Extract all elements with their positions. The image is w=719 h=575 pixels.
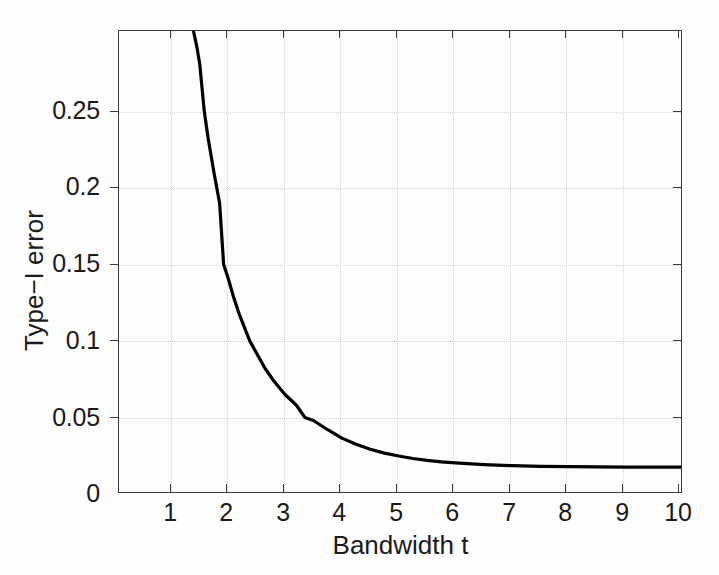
x-tick-label-8: 8: [535, 498, 595, 527]
type-i-error-curve: [193, 31, 682, 467]
x-tick-label-2: 2: [196, 498, 256, 527]
x-tick-label-3: 3: [253, 498, 313, 527]
x-tick-label-7: 7: [479, 498, 539, 527]
x-tick-label-9: 9: [592, 498, 652, 527]
figure-canvas: 0.25 0.2 0.15 0.1 0.05 0 1 2 3 4 5 6 7 8…: [0, 0, 719, 575]
x-tick-label-6: 6: [422, 498, 482, 527]
y-tick-label-0.15: 0.15: [0, 249, 100, 278]
x-tick-label-1: 1: [140, 498, 200, 527]
y-tick-label-0: 0: [0, 479, 100, 508]
y-axis-title: Type−I error: [19, 161, 50, 401]
x-tick-label-10: 10: [648, 498, 708, 527]
y-tick-label-0.05: 0.05: [0, 403, 100, 432]
y-tick-label-0.1: 0.1: [0, 326, 100, 355]
x-tick-label-5: 5: [366, 498, 426, 527]
plot-area: [118, 30, 682, 493]
x-axis-title: Bandwidth t: [0, 530, 719, 561]
y-tick-label-0.25: 0.25: [0, 96, 100, 125]
x-tick-label-4: 4: [309, 498, 369, 527]
data-curve-svg: [119, 31, 682, 493]
y-tick-label-0.2: 0.2: [0, 172, 100, 201]
